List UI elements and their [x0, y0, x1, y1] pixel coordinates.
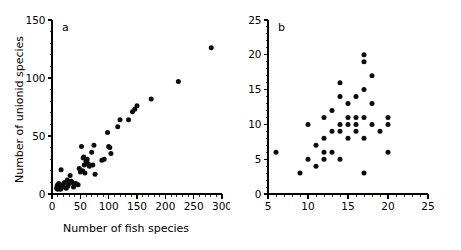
y-tick-label: 50	[32, 130, 45, 142]
data-point	[149, 96, 154, 101]
data-point	[386, 115, 391, 120]
data-point	[135, 103, 140, 108]
y-tick-label: 5	[255, 153, 262, 165]
data-point	[126, 117, 131, 122]
panel-letter-a: a	[62, 21, 69, 34]
data-point	[107, 145, 112, 150]
y-tick-label: 20	[248, 48, 261, 60]
data-point	[76, 182, 81, 187]
x-tick-label: 20	[381, 200, 394, 212]
data-point	[108, 151, 113, 156]
x-tick-label: 150	[127, 200, 147, 212]
data-point	[386, 122, 391, 127]
data-point	[346, 122, 351, 127]
data-point	[354, 129, 359, 134]
data-point	[386, 150, 391, 155]
figure-container: 050100150050100150200250300a Number of f…	[0, 0, 461, 250]
panel-b: 0510152025510152025b Number of fish spec…	[230, 0, 461, 250]
data-point	[105, 130, 110, 135]
data-point	[91, 143, 96, 148]
data-point	[362, 115, 367, 120]
y-axis-title-a: Number of unionid species	[13, 35, 26, 185]
x-tick-label: 0	[49, 200, 56, 212]
x-tick-label: 100	[99, 200, 119, 212]
data-point	[354, 115, 359, 120]
y-tick-label: 0	[39, 188, 46, 200]
data-point	[330, 129, 335, 134]
x-tick-label: 300	[212, 200, 230, 212]
data-point	[338, 80, 343, 85]
x-tick-label: 25	[421, 200, 434, 212]
data-point	[79, 144, 84, 149]
data-point	[370, 101, 375, 106]
data-point	[89, 150, 94, 155]
data-point	[322, 150, 327, 155]
panel-letter-b: b	[278, 21, 285, 34]
data-point	[338, 157, 343, 162]
data-point	[90, 163, 95, 168]
data-point	[209, 45, 214, 50]
data-point	[362, 136, 367, 141]
data-point	[338, 129, 343, 134]
data-point	[322, 136, 327, 141]
data-point	[370, 73, 375, 78]
data-point	[354, 94, 359, 99]
data-point	[370, 122, 375, 127]
x-tick-label: 50	[74, 200, 87, 212]
data-point	[330, 150, 335, 155]
data-point	[82, 171, 87, 176]
data-point	[354, 122, 359, 127]
y-tick-label: 10	[248, 118, 261, 130]
data-point	[314, 164, 319, 169]
data-point	[298, 171, 303, 176]
data-point	[314, 143, 319, 148]
data-point	[85, 157, 90, 162]
x-tick-label: 10	[301, 200, 314, 212]
data-point	[322, 115, 327, 120]
data-point	[59, 167, 64, 172]
data-point	[346, 115, 351, 120]
x-tick-label: 200	[155, 200, 175, 212]
data-point	[306, 157, 311, 162]
x-tick-label: 15	[341, 200, 354, 212]
data-point	[68, 173, 73, 178]
data-point	[115, 124, 120, 129]
data-point	[102, 157, 107, 162]
y-tick-label: 150	[25, 14, 45, 26]
y-tick-label: 100	[25, 72, 45, 84]
data-point	[274, 150, 279, 155]
data-point	[93, 172, 98, 177]
scatter-plot-a: 050100150050100150200250300a	[0, 0, 230, 215]
x-tick-label: 250	[184, 200, 204, 212]
data-point	[362, 52, 367, 57]
data-point	[338, 122, 343, 127]
data-point	[362, 171, 367, 176]
y-tick-label: 0	[255, 188, 262, 200]
data-point	[306, 122, 311, 127]
data-point	[378, 129, 383, 134]
data-point	[322, 157, 327, 162]
data-point	[346, 101, 351, 106]
data-point	[118, 117, 123, 122]
data-point	[362, 59, 367, 64]
data-point	[346, 136, 351, 141]
panel-a: 050100150050100150200250300a Number of f…	[0, 0, 230, 250]
data-point	[330, 108, 335, 113]
y-tick-label: 15	[248, 83, 261, 95]
data-point	[362, 87, 367, 92]
data-point	[338, 94, 343, 99]
scatter-plot-b: 0510152025510152025b	[230, 0, 461, 215]
y-tick-label: 25	[248, 14, 261, 26]
x-tick-label: 5	[265, 200, 272, 212]
x-axis-title-a: Number of fish species	[63, 222, 189, 235]
data-point	[176, 79, 181, 84]
